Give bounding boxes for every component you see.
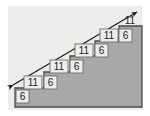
- label-tread-2-text: 11: [54, 61, 65, 72]
- label-tread-3-text: 11: [79, 45, 90, 56]
- label-tread-3: 11: [75, 44, 93, 57]
- label-tread-1: 11: [24, 76, 42, 89]
- label-riser-1: 6: [44, 76, 57, 89]
- label-riser-4: 6: [119, 29, 132, 42]
- label-tread-4-text: 11: [104, 30, 115, 41]
- label-tread-2: 11: [50, 60, 68, 73]
- staircase-figure: 11 6 11 6 11 6 11: [0, 0, 150, 116]
- label-tread-4: 11: [100, 29, 118, 42]
- label-tread-5-text: 11: [125, 15, 136, 26]
- label-riser-3: 6: [95, 44, 108, 57]
- label-base-riser-text: 6: [20, 91, 26, 102]
- label-riser-3-text: 6: [99, 45, 105, 56]
- label-riser-1-text: 6: [48, 77, 54, 88]
- label-tread-1-text: 11: [28, 77, 39, 88]
- label-base-riser: 6: [16, 90, 29, 103]
- staircase-diagram-svg: 11 6 11 6 11 6 11: [0, 0, 150, 116]
- label-riser-2-text: 6: [74, 61, 80, 72]
- label-riser-4-text: 6: [123, 30, 129, 41]
- label-tread-5: 11: [125, 15, 136, 26]
- label-riser-2: 6: [70, 60, 83, 73]
